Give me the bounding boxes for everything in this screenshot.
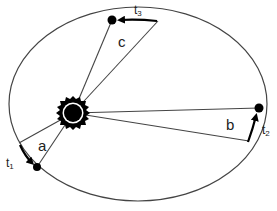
area-label-c: c (118, 33, 126, 50)
arrow-t2 (248, 116, 256, 142)
time-label-t1: t1 (6, 156, 14, 171)
area-label-b: b (226, 116, 234, 133)
arrow-t3 (120, 20, 157, 21)
sun-icon (56, 96, 90, 130)
orbit-ellipse (9, 7, 267, 201)
orbit-diagram: a b c t1 t2 t3 (0, 0, 277, 211)
time-label-t3: t3 (134, 3, 142, 18)
sector-c (73, 20, 158, 113)
time-label-t2: t2 (262, 123, 270, 138)
planet-t1 (33, 163, 41, 171)
arrow-t1 (20, 145, 32, 163)
area-label-a: a (38, 137, 47, 154)
planet-t2 (255, 104, 264, 113)
planet-t3 (108, 16, 117, 25)
